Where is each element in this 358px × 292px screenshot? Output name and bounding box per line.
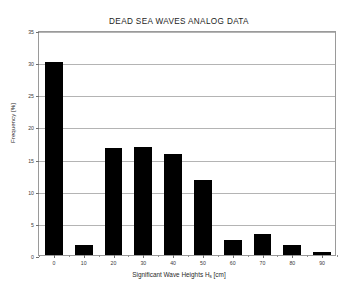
x-axis-title-suffix: [cm]	[212, 271, 226, 278]
x-minor-tick-mark	[337, 255, 338, 257]
bar	[313, 252, 331, 255]
y-tick-label: 35	[28, 29, 34, 35]
x-minor-tick-mark	[69, 255, 70, 257]
bar	[224, 240, 242, 255]
x-tick-mark	[292, 255, 293, 258]
x-tick-mark	[114, 255, 115, 258]
x-axis-title: Significant Wave Heights Hs [cm]	[0, 271, 358, 278]
x-tick-label: 50	[200, 260, 206, 266]
y-tick-label: 20	[28, 125, 34, 131]
y-tick-label: 25	[28, 93, 34, 99]
x-tick-label: 90	[319, 260, 325, 266]
y-axis-title: Frequency [%]	[9, 103, 16, 143]
x-minor-tick-mark	[128, 255, 129, 257]
y-tick-label: 30	[28, 61, 34, 67]
y-tick-mark	[36, 257, 39, 258]
x-minor-tick-mark	[188, 255, 189, 257]
x-minor-tick-mark	[248, 255, 249, 257]
y-tick-label: 0	[31, 254, 34, 260]
y-tick-label: 15	[28, 158, 34, 164]
bar	[194, 180, 212, 255]
bar	[75, 245, 93, 255]
bar	[164, 154, 182, 255]
x-tick-mark	[322, 255, 323, 258]
x-minor-tick-mark	[99, 255, 100, 257]
x-tick-mark	[84, 255, 85, 258]
y-tick-label: 10	[28, 190, 34, 196]
x-tick-mark	[173, 255, 174, 258]
x-tick-mark	[143, 255, 144, 258]
y-tick-label: 5	[31, 222, 34, 228]
x-tick-label: 40	[170, 260, 176, 266]
x-minor-tick-mark	[39, 255, 40, 257]
x-tick-label: 20	[111, 260, 117, 266]
bar	[283, 245, 301, 255]
x-minor-tick-mark	[218, 255, 219, 257]
x-minor-tick-mark	[307, 255, 308, 257]
x-tick-mark	[233, 255, 234, 258]
plot-area: 05101520253035 0102030405060708090	[38, 31, 336, 256]
x-axis-title-prefix: Significant Wave Heights H	[132, 271, 209, 278]
bar	[254, 234, 272, 255]
x-tick-label: 60	[230, 260, 236, 266]
x-tick-label: 10	[81, 260, 87, 266]
x-axis-title-subscript: s	[210, 274, 212, 279]
x-tick-label: 30	[140, 260, 146, 266]
chart-figure: DEAD SEA WAVES ANALOG DATA 0510152025303…	[0, 0, 358, 292]
bar-series	[39, 32, 335, 255]
bar	[134, 147, 152, 255]
x-tick-mark	[263, 255, 264, 258]
x-minor-tick-mark	[277, 255, 278, 257]
x-tick-label: 80	[289, 260, 295, 266]
x-tick-mark	[203, 255, 204, 258]
x-tick-label: 70	[260, 260, 266, 266]
x-tick-label: 0	[52, 260, 55, 266]
bar	[105, 148, 123, 255]
chart-title: DEAD SEA WAVES ANALOG DATA	[0, 17, 358, 26]
x-tick-mark	[54, 255, 55, 258]
bar	[45, 62, 63, 255]
x-minor-tick-mark	[158, 255, 159, 257]
